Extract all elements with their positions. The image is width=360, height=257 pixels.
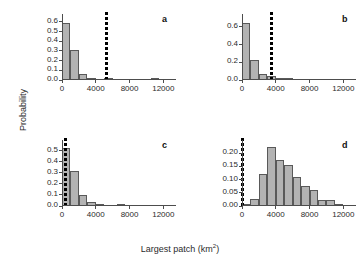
y-axis-line-b [242, 14, 243, 80]
histogram-bar [250, 60, 258, 80]
x-tick-label: 4000 [267, 210, 285, 219]
x-tick-mark [275, 80, 276, 83]
plot-area-b: 0.00.20.40.604000800012000 [242, 18, 356, 80]
y-tick-label: 0.5 [47, 145, 58, 154]
histogram-bar [293, 177, 301, 206]
y-tick-mark [239, 153, 242, 154]
x-tick-label: 0 [240, 84, 244, 93]
x-tick-label: 8000 [121, 84, 139, 93]
y-tick-label: 0.0 [47, 200, 58, 209]
panel-label-b: b [342, 14, 348, 24]
y-tick-mark [59, 70, 62, 71]
y-tick-mark [59, 21, 62, 22]
reference-line-c [64, 138, 67, 206]
y-tick-label: 0.10 [222, 174, 238, 183]
x-tick-mark [275, 206, 276, 209]
x-tick-mark [129, 80, 130, 83]
y-tick-label: 0.6 [47, 16, 58, 25]
x-axis-line-d [242, 205, 356, 206]
x-tick-mark [309, 80, 310, 83]
y-axis-line-d [242, 140, 243, 206]
y-tick-label: 0.6 [227, 21, 238, 30]
histogram-bar [70, 171, 78, 206]
y-tick-mark [59, 161, 62, 162]
y-tick-label: 0.1 [47, 64, 58, 73]
panel-d: 0.000.050.100.150.2004000800012000 [242, 144, 356, 206]
plot-area-c: 0.00.10.20.30.40.504000800012000 [62, 144, 176, 206]
x-tick-mark [163, 206, 164, 209]
x-tick-mark [129, 206, 130, 209]
histogram-bar [259, 174, 267, 206]
histogram-bar [242, 23, 250, 80]
y-tick-mark [239, 192, 242, 193]
y-tick-mark [239, 44, 242, 45]
y-tick-label: 0.4 [227, 39, 238, 48]
y-tick-mark [239, 26, 242, 27]
figure-canvas: Probability Largest patch (km2) 0.00.10.… [0, 0, 360, 257]
y-tick-mark [59, 50, 62, 51]
panel-label-c: c [162, 140, 167, 150]
y-tick-label: 0.15 [222, 160, 238, 169]
x-tick-mark [95, 80, 96, 83]
y-tick-label: 0.3 [47, 45, 58, 54]
y-tick-mark [59, 150, 62, 151]
y-tick-label: 0.2 [47, 55, 58, 64]
x-tick-label: 0 [60, 84, 64, 93]
plot-area-a: 0.00.10.20.30.40.50.604000800012000 [62, 18, 176, 80]
reference-line-b [270, 12, 273, 80]
x-tick-label: 4000 [267, 84, 285, 93]
y-tick-mark [59, 31, 62, 32]
y-tick-label: 0.2 [227, 56, 238, 65]
y-tick-label: 0.0 [47, 74, 58, 83]
x-tick-label: 12000 [152, 84, 174, 93]
x-tick-mark [343, 206, 344, 209]
x-tick-label: 4000 [87, 210, 105, 219]
x-tick-label: 0 [60, 210, 64, 219]
histogram-bar [310, 190, 318, 206]
x-tick-label: 8000 [301, 84, 319, 93]
y-tick-label: 0.4 [47, 156, 58, 165]
histogram-bar [62, 23, 70, 80]
x-tick-mark [242, 206, 243, 209]
x-axis-title: Largest patch (km2) [0, 243, 360, 254]
x-tick-mark [309, 206, 310, 209]
y-axis-line-a [62, 14, 63, 80]
y-axis-line-c [62, 140, 63, 206]
y-tick-label: 0.05 [222, 187, 238, 196]
x-tick-label: 4000 [87, 84, 105, 93]
x-axis-line-c [62, 205, 176, 206]
reference-line-a [105, 12, 108, 80]
x-tick-mark [62, 80, 63, 83]
x-tick-label: 8000 [121, 210, 139, 219]
x-tick-label: 12000 [332, 84, 354, 93]
x-axis-title-text: Largest patch (km [141, 244, 213, 254]
x-tick-label: 0 [240, 210, 244, 219]
y-tick-label: 0.3 [47, 167, 58, 176]
x-tick-mark [95, 206, 96, 209]
x-tick-label: 12000 [152, 210, 174, 219]
panel-b: 0.00.20.40.604000800012000 [242, 18, 356, 80]
histogram-bar [70, 50, 78, 80]
y-tick-label: 0.5 [47, 26, 58, 35]
y-tick-mark [59, 172, 62, 173]
x-tick-mark [242, 80, 243, 83]
y-tick-mark [59, 60, 62, 61]
y-tick-mark [59, 194, 62, 195]
x-tick-label: 12000 [332, 210, 354, 219]
x-tick-mark [343, 80, 344, 83]
panel-label-a: a [162, 14, 167, 24]
histogram-bar [267, 147, 275, 206]
y-tick-mark [59, 41, 62, 42]
x-axis-line-b [242, 79, 356, 80]
y-tick-label: 0.20 [222, 147, 238, 156]
histogram-bar [301, 186, 309, 206]
panel-c: 0.00.10.20.30.40.504000800012000 [62, 144, 176, 206]
y-tick-label: 0.1 [47, 189, 58, 198]
y-tick-label: 0.4 [47, 35, 58, 44]
y-tick-mark [239, 179, 242, 180]
panel-label-d: d [342, 140, 348, 150]
y-tick-mark [239, 166, 242, 167]
x-tick-mark [62, 206, 63, 209]
x-tick-mark [163, 80, 164, 83]
y-axis-title: Probability [18, 65, 28, 155]
